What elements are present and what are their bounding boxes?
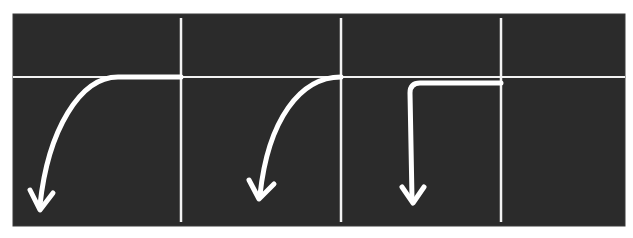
- scope-screen-panel: [13, 14, 625, 226]
- oscilloscope-diagram: [0, 0, 633, 238]
